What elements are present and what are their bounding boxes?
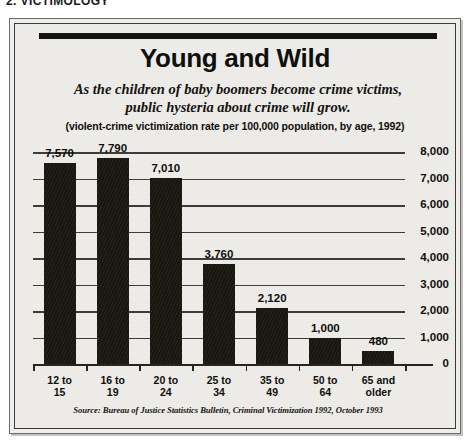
y-axis-tick-label: 8,000 — [407, 145, 449, 157]
x-axis-line — [33, 364, 433, 366]
y-axis-tick-label: 4,000 — [407, 251, 449, 263]
x-axis-tick — [33, 364, 35, 371]
y-axis-tick-label: 5,000 — [407, 225, 449, 237]
grid-line — [33, 205, 405, 207]
bar-value-label: 7,010 — [136, 162, 196, 174]
x-axis-tick — [352, 364, 354, 371]
x-axis-tick-label: 65 andolder — [343, 374, 413, 398]
x-axis-tick-label-line: older — [343, 386, 413, 398]
bar-value-label: 480 — [348, 335, 408, 347]
bar — [309, 338, 341, 365]
bar — [203, 264, 235, 364]
bar-value-label: 7,570 — [30, 147, 90, 159]
bar — [256, 308, 288, 364]
chart-subtitle: As the children of baby boomers become c… — [65, 80, 411, 116]
x-axis-tick — [86, 364, 88, 371]
x-axis-tick — [139, 364, 141, 371]
x-axis-tick — [246, 364, 248, 371]
grid-line — [33, 232, 405, 234]
page-header: 2. VICTIMOLOGY — [6, 0, 306, 10]
chart-figure: Young and Wild As the children of baby b… — [9, 18, 461, 434]
y-axis-tick-label: 3,000 — [407, 278, 449, 290]
y-axis-tick-label: 7,000 — [407, 172, 449, 184]
title-rule-divider — [39, 33, 437, 39]
x-axis-tick — [192, 364, 194, 371]
grid-line — [33, 179, 405, 181]
chart-title: Young and Wild — [15, 43, 455, 74]
y-axis-tick-label: 0 — [407, 357, 449, 369]
bar-value-label: 7,790 — [83, 142, 143, 154]
chart-source-note: Source: Bureau of Justice Statistics Bul… — [15, 405, 455, 415]
bar — [97, 158, 129, 364]
bar-value-label: 3,760 — [189, 248, 249, 260]
y-axis-tick-label: 2,000 — [407, 304, 449, 316]
bar — [44, 163, 76, 364]
y-axis-tick-label: 6,000 — [407, 198, 449, 210]
bar-value-label: 2,120 — [242, 292, 302, 304]
x-axis-tick — [405, 364, 407, 371]
plot-area: 7,5707,7907,0103,7602,1201,000480 — [33, 152, 405, 364]
bar — [362, 351, 394, 364]
chart-units-note: (violent-crime victimization rate per 10… — [15, 120, 455, 132]
page-header-text: 2. VICTIMOLOGY — [6, 0, 306, 8]
x-axis-tick — [299, 364, 301, 371]
x-axis-tick-label-line: 65 and — [343, 374, 413, 386]
bar-value-label: 1,000 — [295, 322, 355, 334]
y-axis-tick-label: 1,000 — [407, 331, 449, 343]
chart-figure-inner-frame: Young and Wild As the children of baby b… — [14, 23, 456, 429]
bar — [150, 178, 182, 364]
